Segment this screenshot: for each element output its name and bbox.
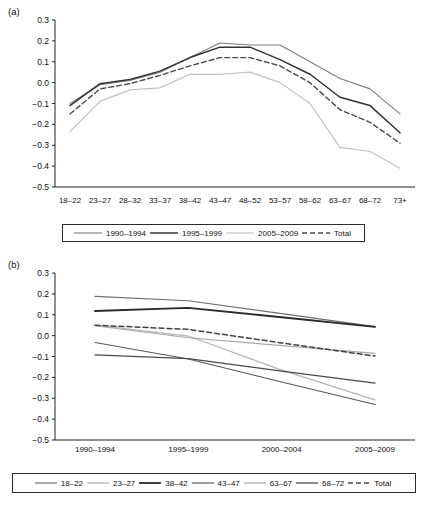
legend-label: 68–72 <box>319 479 347 488</box>
legend-item[interactable]: 68–72 <box>295 479 347 488</box>
y-tick-label: −0.4 <box>32 414 49 424</box>
legend-swatch-line-icon <box>295 479 319 487</box>
legend-item[interactable]: 2005–2009 <box>225 229 301 238</box>
legend-label: 43–47 <box>215 479 243 488</box>
series-line-1990-1994 <box>70 43 400 114</box>
chart-panel-b: (b) 0.30.20.10.0−0.1−0.2−0.3−0.4−0.5 199… <box>0 255 427 510</box>
series-line-2005-2009 <box>70 72 400 168</box>
legend-item[interactable]: 43–47 <box>191 479 243 488</box>
legend-label: 63–67 <box>267 479 295 488</box>
y-tick-label: 0.1 <box>37 57 49 67</box>
y-tick-label: −0.2 <box>32 119 49 129</box>
series-line-1995-1999 <box>70 47 400 133</box>
legend-swatch-line-icon <box>34 479 58 487</box>
legend-label: Total <box>331 229 354 238</box>
plot-area-a: 0.30.20.10.0−0.1−0.2−0.3−0.4−0.5 <box>0 0 427 200</box>
series-line-43-47 <box>95 343 375 405</box>
series-line-38-42 <box>95 308 375 327</box>
legend-swatch-line-icon <box>301 229 331 237</box>
y-tick-label: 0.1 <box>37 310 49 320</box>
series-line-68-72 <box>95 355 375 383</box>
legend-label: 23–27 <box>110 479 138 488</box>
legend-item[interactable]: 38–42 <box>138 479 190 488</box>
figure-root: (a) 0.30.20.10.0−0.1−0.2−0.3−0.4−0.5 18–… <box>0 0 427 510</box>
y-tick-label: 0.3 <box>37 15 49 25</box>
plot-area-b: 0.30.20.10.0−0.1−0.2−0.3−0.4−0.5 <box>0 255 427 455</box>
y-tick-label: −0.1 <box>32 99 49 109</box>
legend-swatch-line-icon <box>347 479 371 487</box>
y-tick-label: −0.3 <box>32 393 49 403</box>
legend-item[interactable]: Total <box>347 479 394 488</box>
legend-label: 2005–2009 <box>255 229 301 238</box>
legend-item[interactable]: 1995–1999 <box>149 229 225 238</box>
y-tick-label: 0.2 <box>37 36 49 46</box>
legend-b: 18–2223–2738–4243–4763–6768–72Total <box>12 473 416 493</box>
y-tick-label: −0.5 <box>32 435 49 445</box>
legend-item[interactable]: 18–22 <box>34 479 86 488</box>
x-tick-label: 1995–1999 <box>158 445 218 454</box>
legend-swatch-line-icon <box>86 479 110 487</box>
y-tick-label: −0.2 <box>32 372 49 382</box>
y-tick-label: −0.4 <box>32 161 49 171</box>
x-axis-labels-a: 18–2223–2728–3233–3738–4243–4748–5253–57… <box>0 196 427 210</box>
y-tick-label: 0.0 <box>37 78 49 88</box>
legend-item[interactable]: 63–67 <box>243 479 295 488</box>
line-chart-a: 0.30.20.10.0−0.1−0.2−0.3−0.4−0.5 <box>0 0 427 200</box>
legend-label: Total <box>371 479 394 488</box>
legend-swatch-line-icon <box>73 229 103 237</box>
x-tick-label: 2000–2004 <box>252 445 312 454</box>
y-tick-label: −0.5 <box>32 182 49 192</box>
x-tick-label: 2005–2009 <box>345 445 405 454</box>
x-axis-labels-b: 1990–19941995–19992000–20042005–2009 <box>0 445 427 459</box>
legend-swatch-line-icon <box>225 229 255 237</box>
y-tick-label: 0.3 <box>37 268 49 278</box>
chart-panel-a: (a) 0.30.20.10.0−0.1−0.2−0.3−0.4−0.5 18–… <box>0 0 427 255</box>
y-tick-label: −0.3 <box>32 140 49 150</box>
legend-swatch-line-icon <box>138 479 162 487</box>
legend-swatch-line-icon <box>149 229 179 237</box>
y-tick-label: −0.1 <box>32 352 49 362</box>
legend-item[interactable]: 23–27 <box>86 479 138 488</box>
y-tick-label: 0.0 <box>37 331 49 341</box>
legend-a: 1990–19941995–19992005–2009Total <box>62 224 365 242</box>
y-tick-label: 0.2 <box>37 289 49 299</box>
legend-swatch-line-icon <box>243 479 267 487</box>
x-tick-label: 73+ <box>370 196 427 205</box>
legend-item[interactable]: Total <box>301 229 354 238</box>
legend-label: 1990–1994 <box>103 229 149 238</box>
legend-label: 18–22 <box>58 479 86 488</box>
x-tick-label: 1990–1994 <box>65 445 125 454</box>
legend-label: 38–42 <box>162 479 190 488</box>
legend-label: 1995–1999 <box>179 229 225 238</box>
legend-swatch-line-icon <box>191 479 215 487</box>
line-chart-b: 0.30.20.10.0−0.1−0.2−0.3−0.4−0.5 <box>0 255 427 455</box>
legend-item[interactable]: 1990–1994 <box>73 229 149 238</box>
